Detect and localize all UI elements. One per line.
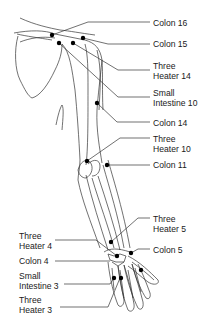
label-line: Three: [153, 214, 186, 224]
label-line: Colon 14: [153, 118, 187, 128]
label-line: Intestine 10: [153, 98, 197, 108]
point-small-intestine-10: [57, 41, 61, 45]
label-line: Heater 5: [153, 224, 186, 234]
label-three-heater-3: ThreeHeater 3: [19, 295, 52, 315]
label-line: Colon 15: [153, 39, 187, 49]
point-colon-15: [81, 36, 85, 40]
label-line: Heater 14: [153, 71, 191, 81]
point-three-heater-5: [109, 240, 113, 244]
label-colon-4: Colon 4: [19, 256, 49, 266]
label-line: Intestine 3: [19, 281, 59, 291]
label-three-heater-14: ThreeHeater 14: [153, 61, 191, 81]
label-line: Three: [19, 231, 52, 241]
label-line: Three: [19, 295, 52, 305]
label-three-heater-4: ThreeHeater 4: [19, 231, 52, 251]
label-three-heater-10: ThreeHeater 10: [153, 134, 191, 154]
label-line: Colon 16: [153, 18, 187, 28]
label-line: Colon 11: [153, 160, 187, 170]
point-colon-16: [50, 33, 54, 37]
point-colon-4: [139, 268, 143, 272]
label-line: Heater 3: [19, 305, 52, 315]
label-colon-16: Colon 16: [153, 18, 187, 28]
label-line: Heater 4: [19, 241, 52, 251]
label-colon-14: Colon 14: [153, 118, 187, 128]
point-colon-11: [105, 163, 109, 167]
label-line: Colon 5: [153, 245, 183, 255]
label-line: Three: [153, 134, 191, 144]
label-line: Small: [19, 271, 59, 281]
label-colon-11: Colon 11: [153, 160, 187, 170]
arm-outline: [14, 18, 158, 311]
point-three-heater-4: [115, 254, 119, 258]
point-three-heater-3: [119, 276, 123, 280]
label-line: Three: [153, 61, 191, 71]
label-colon-5: Colon 5: [153, 245, 183, 255]
point-three-heater-10: [85, 159, 89, 163]
label-line: Heater 10: [153, 144, 191, 154]
label-three-heater-5: ThreeHeater 5: [153, 214, 186, 234]
label-line: Colon 4: [19, 256, 49, 266]
label-small-intestine-10: SmallIntestine 10: [153, 88, 197, 108]
label-small-intestine-3: SmallIntestine 3: [19, 271, 59, 291]
point-colon-14: [95, 101, 99, 105]
point-colon-5: [129, 251, 133, 255]
label-colon-15: Colon 15: [153, 39, 187, 49]
label-line: Small: [153, 88, 197, 98]
point-three-heater-14: [71, 41, 75, 45]
point-small-intestine-3: [112, 276, 116, 280]
